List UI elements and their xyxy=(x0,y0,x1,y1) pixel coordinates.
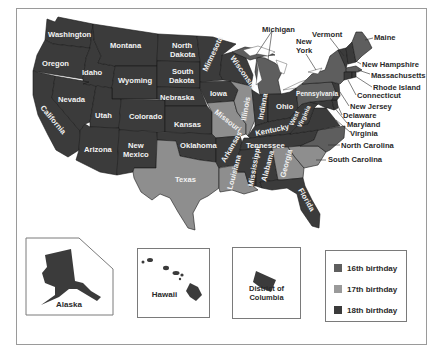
label-idaho: Idaho xyxy=(82,68,103,77)
label-iowa: Iowa xyxy=(210,89,228,98)
label-michigan: Michigan xyxy=(262,25,295,34)
label-nevada: Nevada xyxy=(58,95,86,104)
legend-swatch-16th xyxy=(334,264,342,272)
legend-swatch-18th xyxy=(334,306,342,314)
label-new-york-2: York xyxy=(296,46,313,55)
legend-swatch-17th xyxy=(334,285,342,293)
label-south-dakota-2: Dakota xyxy=(169,76,195,85)
label-new-mexico-1: New xyxy=(128,141,144,150)
inset-hawaii: Hawaii xyxy=(137,248,210,318)
label-oregon: Oregon xyxy=(42,59,69,68)
label-new-hampshire: New Hampshire xyxy=(362,60,419,69)
label-delaware: Delaware xyxy=(343,111,376,120)
label-nebraska: Nebraska xyxy=(160,93,195,102)
legend: 16th birthday 17th birthday 18th birthda… xyxy=(325,250,407,322)
label-colorado: Colorado xyxy=(129,112,163,121)
label-north-carolina: North Carolina xyxy=(341,141,395,150)
dc-label: District of Columbia xyxy=(233,284,300,302)
inset-alaska: Alaska xyxy=(25,237,113,315)
label-south-carolina: South Carolina xyxy=(328,155,383,164)
state-maine[interactable] xyxy=(352,32,372,62)
state-new-york[interactable] xyxy=(302,50,346,84)
label-massachusetts: Massachusetts xyxy=(371,71,425,80)
label-maryland: Maryland xyxy=(347,120,381,129)
legend-label-16th: 16th birthday xyxy=(347,264,397,273)
label-north-dakota-2: Dakota xyxy=(170,50,196,59)
label-washington: Washington xyxy=(48,30,92,39)
label-new-york-1: New xyxy=(296,37,312,46)
state-rhode-island[interactable] xyxy=(352,72,356,78)
label-north-dakota-1: North xyxy=(172,41,193,50)
legend-label-17th: 17th birthday xyxy=(347,285,397,294)
label-kansas: Kansas xyxy=(174,120,201,129)
alaska-label: Alaska xyxy=(25,300,113,309)
label-arizona: Arizona xyxy=(84,145,113,154)
label-ohio: Ohio xyxy=(276,102,294,111)
state-connecticut[interactable] xyxy=(344,72,352,80)
inset-dc: District of Columbia xyxy=(232,247,301,319)
label-texas: Texas xyxy=(175,175,196,184)
label-new-jersey: New Jersey xyxy=(350,102,393,111)
legend-label-18th: 18th birthday xyxy=(347,306,397,315)
state-massachusetts[interactable] xyxy=(346,66,362,72)
legend-item-17th: 17th birthday xyxy=(334,283,397,295)
label-new-mexico-2: Mexico xyxy=(123,150,149,159)
label-maine: Maine xyxy=(374,33,396,42)
hawaii-label: Hawaii xyxy=(120,290,209,299)
label-connecticut: Connecticut xyxy=(357,91,401,100)
label-south-dakota-1: South xyxy=(172,67,194,76)
label-pennsylvania: Pennsylvania xyxy=(296,90,338,98)
dc-shape xyxy=(233,248,300,318)
legend-item-18th: 18th birthday xyxy=(334,304,397,316)
label-vermont: Vermont xyxy=(312,30,343,39)
label-oklahoma: Oklahoma xyxy=(180,141,217,150)
label-virginia: Virginia xyxy=(350,129,378,138)
label-montana: Montana xyxy=(110,41,142,50)
label-utah: Utah xyxy=(95,111,112,120)
label-wyoming: Wyoming xyxy=(118,76,152,85)
legend-item-16th: 16th birthday xyxy=(334,262,397,274)
hawaii-shape xyxy=(138,249,209,317)
